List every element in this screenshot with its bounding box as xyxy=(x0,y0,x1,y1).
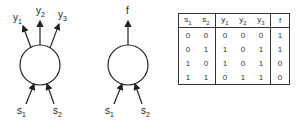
cell: 1 xyxy=(216,56,235,70)
label-y1: y1 xyxy=(13,12,22,25)
label-s1: s1 xyxy=(17,105,26,118)
table-row: 1 0 1 0 1 0 xyxy=(179,56,290,70)
header-y1: y1 xyxy=(216,14,235,28)
header-f: f xyxy=(271,14,290,28)
cell: 1 xyxy=(197,42,216,56)
cell: 0 xyxy=(197,56,216,70)
label-s2: s2 xyxy=(53,105,62,118)
header-y3: y3 xyxy=(252,14,271,28)
header-s1: s1 xyxy=(179,14,198,28)
cell: 0 xyxy=(234,42,252,56)
label-y3: y3 xyxy=(58,9,67,22)
cell: 0 xyxy=(271,70,290,85)
cell: 1 xyxy=(252,42,271,56)
cell: 0 xyxy=(234,28,252,43)
cell: 0 xyxy=(271,56,290,70)
cell: 0 xyxy=(179,42,198,56)
table-header-row: s1 s2 y1 y2 y3 f xyxy=(179,14,290,28)
cell: 0 xyxy=(252,28,271,43)
truth-table: s1 s2 y1 y2 y3 f 0 0 0 0 0 1 0 1 1 0 1 1… xyxy=(178,13,290,85)
table-row: 0 1 1 0 1 1 xyxy=(179,42,290,56)
cell: 0 xyxy=(216,28,235,43)
cell: 1 xyxy=(179,56,198,70)
cell: 1 xyxy=(216,42,235,56)
header-y2: y2 xyxy=(234,14,252,28)
label-y2: y2 xyxy=(36,5,45,18)
cell: 1 xyxy=(271,42,290,56)
middle-node: f s1 s2 xyxy=(105,5,150,118)
header-s2: s2 xyxy=(197,14,216,28)
label-s2: s2 xyxy=(141,105,150,118)
table-row: 0 0 0 0 0 1 xyxy=(179,28,290,43)
cell: 0 xyxy=(197,28,216,43)
label-s1: s1 xyxy=(105,105,114,118)
table-row: 1 1 0 1 1 0 xyxy=(179,70,290,85)
cell: 0 xyxy=(179,28,198,43)
cell: 1 xyxy=(252,70,271,85)
cell: 0 xyxy=(216,70,235,85)
cell: 1 xyxy=(197,70,216,85)
cell: 1 xyxy=(271,28,290,43)
cell: 1 xyxy=(234,70,252,85)
label-f: f xyxy=(126,5,129,16)
cell: 1 xyxy=(179,70,198,85)
cell: 0 xyxy=(234,56,252,70)
left-node: y1 y2 y3 s1 s2 xyxy=(13,5,67,118)
cell: 1 xyxy=(252,56,271,70)
